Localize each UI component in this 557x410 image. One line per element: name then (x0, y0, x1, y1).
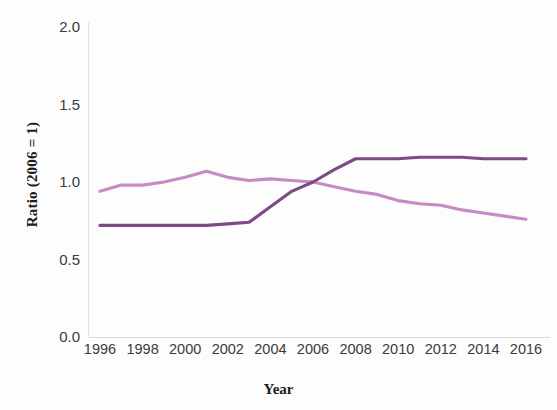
x-axis-title: Year (0, 381, 557, 398)
series-line-series-light (100, 171, 526, 219)
series-line-series-dark (100, 157, 526, 225)
x-tick-label: 2016 (500, 341, 552, 357)
line-chart: Ratio (2006 = 1) 0.00.51.01.52.0 1996199… (0, 0, 557, 410)
